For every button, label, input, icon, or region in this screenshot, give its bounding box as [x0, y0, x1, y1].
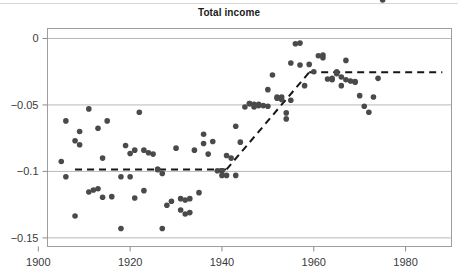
data-point [155, 167, 161, 173]
data-point [123, 143, 129, 149]
xtick-label-1920: 1920 [118, 256, 142, 268]
xtick-label-1960: 1960 [302, 256, 326, 268]
data-point [233, 173, 239, 179]
data-point [63, 174, 69, 180]
data-point [192, 147, 198, 153]
data-point [283, 116, 289, 122]
data-point [233, 123, 239, 129]
ytick-label-0: 0 [32, 32, 38, 44]
data-point [187, 210, 193, 216]
data-point [224, 173, 230, 179]
data-point [366, 109, 372, 115]
data-point [205, 151, 211, 157]
ytick-label-3: −0.15 [11, 232, 39, 244]
tick-marks-group [38, 38, 405, 251]
data-point [371, 94, 377, 100]
data-point [343, 58, 349, 64]
ytick-label-1: −0.05 [11, 99, 39, 111]
tick-labels-group: 190019201940196019800−0.05−0.1−0.15 [11, 32, 418, 267]
data-point [118, 174, 124, 180]
data-point [334, 71, 340, 77]
data-point [95, 186, 101, 192]
data-point [104, 118, 110, 124]
data-point [169, 199, 175, 205]
data-point [375, 76, 381, 82]
data-point [361, 103, 367, 109]
data-point [164, 202, 170, 208]
data-point [329, 76, 335, 82]
data-point [210, 139, 216, 145]
data-point [159, 226, 165, 232]
axis-frame [48, 29, 452, 247]
data-point [77, 129, 83, 135]
data-point [150, 151, 156, 157]
data-point [265, 103, 271, 109]
data-point [196, 190, 202, 196]
data-point [77, 142, 83, 148]
data-point [132, 147, 138, 153]
data-point [159, 171, 165, 177]
data-point [297, 62, 303, 68]
xtick-label-1980: 1980 [393, 256, 417, 268]
data-point [63, 118, 69, 124]
data-point [357, 93, 363, 99]
data-point [288, 60, 294, 66]
data-point [109, 194, 115, 200]
data-point [242, 104, 248, 110]
data-point [320, 52, 326, 58]
data-point [265, 87, 271, 93]
data-point [127, 174, 133, 180]
data-point [228, 155, 234, 161]
chart-figure: Total income 190019201940196019800−0.05−… [0, 0, 458, 279]
data-point [137, 109, 143, 115]
data-point [352, 80, 358, 86]
data-point [380, 0, 386, 3]
data-point [297, 40, 303, 46]
data-point [178, 207, 184, 213]
plot-border [48, 29, 452, 247]
scatter-plot-canvas: 190019201940196019800−0.05−0.1−0.15 [0, 0, 458, 279]
data-point [58, 159, 64, 165]
data-point [238, 139, 244, 145]
xtick-label-1900: 1900 [26, 256, 50, 268]
data-point [95, 125, 101, 131]
data-point [306, 62, 312, 68]
data-point [270, 72, 276, 78]
data-point [141, 188, 147, 194]
data-point [311, 69, 317, 75]
data-point [173, 145, 179, 151]
data-point [72, 138, 78, 144]
gridlines-group [48, 38, 452, 237]
data-point [283, 110, 289, 116]
data-point [100, 195, 106, 201]
data-point [187, 196, 193, 202]
data-point [72, 213, 78, 219]
data-point [100, 155, 106, 161]
data-point [339, 83, 345, 89]
xtick-label-1940: 1940 [210, 256, 234, 268]
data-point [118, 226, 124, 232]
data-point [127, 151, 133, 157]
data-points-group [58, 0, 385, 231]
data-point [201, 141, 207, 147]
data-point [279, 97, 285, 103]
data-point [302, 83, 308, 89]
data-point [132, 195, 138, 201]
data-point [288, 97, 294, 103]
data-point [201, 131, 207, 137]
ytick-label-2: −0.1 [17, 165, 39, 177]
data-point [86, 106, 92, 112]
